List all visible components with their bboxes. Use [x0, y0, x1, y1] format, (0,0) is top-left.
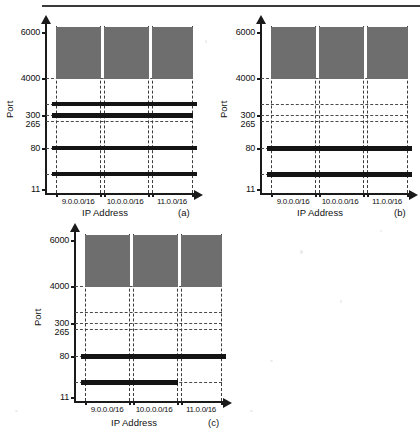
bar-b-20-col1: [267, 172, 316, 177]
bar-b-20-col2: [315, 172, 364, 177]
ytick-label-4000-b: 4000: [220, 73, 255, 83]
ytick-mark-4000-c: [71, 286, 75, 288]
block-b-col2: [319, 27, 364, 79]
bar-b-80-col2: [315, 146, 364, 151]
ytick-mark-11-a: [42, 189, 46, 191]
panel-b: 6000 4000 300 265 80 11 Port 9.0.0.0/16 …: [208, 14, 420, 209]
xtick-label-c-1: 9.0.0.0/16: [81, 405, 133, 414]
block-a-col1: [56, 27, 101, 79]
bar-c-20-col1: [81, 380, 130, 385]
block-b-col3: [367, 27, 408, 79]
y-axis-arrow-c: [70, 223, 80, 232]
xtick-label-c-3: 11.0.0/16: [177, 405, 225, 414]
ytick-label-6000-c: 6000: [34, 235, 69, 245]
y-axis-title-a: Port: [4, 101, 15, 118]
ytick-mark-80-c: [71, 356, 75, 358]
ytick-label-4000-c: 4000: [34, 281, 69, 291]
bar-a-20-col2: [100, 172, 149, 176]
ytick-label-265-c: 265: [34, 327, 69, 337]
block-c-col2: [133, 235, 178, 287]
block-c-col3: [181, 235, 222, 287]
bar-a-265-col1: [52, 113, 101, 118]
ytick-mark-300-c: [71, 323, 75, 325]
bar-c-80-col1: [81, 354, 130, 359]
y-axis-c: [74, 232, 76, 402]
xtick-label-a-1: 9.0.0.0/16: [52, 197, 104, 206]
ytick-mark-11-c: [71, 397, 75, 399]
x-axis-title-c: IP Address: [99, 417, 169, 428]
gridline-300-b: [261, 115, 408, 116]
x-axis-b: [260, 193, 410, 195]
bar-a-350-col2: [100, 102, 149, 106]
ytick-mark-11-b: [257, 189, 261, 191]
bar-c-20-col2: [129, 380, 178, 385]
block-a-col3: [152, 27, 193, 79]
bar-a-20-col1: [52, 172, 101, 176]
y-axis-title-b: Port: [218, 101, 229, 118]
y-axis-arrow-a: [41, 15, 51, 24]
ytick-mark-4000-a: [42, 78, 46, 80]
panel-tag-b: (b): [394, 207, 406, 218]
ytick-label-6000-b: 6000: [220, 27, 255, 37]
ytick-mark-6000-c: [71, 240, 75, 242]
x-axis-c: [74, 401, 224, 403]
xtick-label-b-2: 10.0.0.0/16: [314, 197, 366, 206]
block-c-col1: [85, 235, 130, 287]
y-axis-a: [45, 24, 47, 194]
xtick-label-c-2: 10.0.0.0/16: [128, 405, 180, 414]
ytick-mark-80-b: [257, 148, 261, 150]
ytick-label-80-a: 80: [5, 143, 40, 153]
xtick-label-b-1: 9.0.0.0/16: [267, 197, 319, 206]
scan-artifact: [380, 230, 382, 232]
xtick-label-b-3: 11.0.0/16: [363, 197, 411, 206]
ytick-label-11-a: 11: [5, 184, 40, 194]
panel-c: 6000 4000 300 265 80 11 Port 9.0.0.0/16 …: [22, 222, 234, 422]
ytick-mark-300-a: [42, 115, 46, 117]
block-a-col2: [104, 27, 149, 79]
scan-artifact: [300, 250, 303, 254]
ytick-label-6000-a: 6000: [5, 27, 40, 37]
y-axis-b: [260, 24, 262, 194]
bar-c-80-col2: [129, 354, 178, 359]
bar-a-265-col2: [100, 113, 149, 118]
gridline-300-c: [75, 323, 222, 324]
x-axis-a: [45, 193, 195, 195]
bar-a-20-col3: [148, 172, 197, 176]
bar-a-80-col2: [100, 146, 149, 150]
y-axis-title-c: Port: [32, 309, 43, 326]
ytick-label-11-c: 11: [34, 392, 69, 402]
ytick-mark-4000-b: [257, 78, 261, 80]
bar-c-80-col3: [177, 354, 226, 359]
x-axis-title-b: IP Address: [285, 207, 355, 218]
gridline-265-c: [75, 329, 222, 330]
header-rule: [42, 5, 420, 7]
ytick-mark-6000-a: [42, 32, 46, 34]
ytick-label-4000-a: 4000: [5, 73, 40, 83]
xtick-label-a-3: 11.0.0/16: [148, 197, 196, 206]
ytick-mark-300-b: [257, 115, 261, 117]
scan-artifact: [15, 410, 18, 412]
scan-artifact: [250, 410, 253, 412]
ytick-label-80-b: 80: [220, 143, 255, 153]
scan-artifact: [205, 40, 207, 43]
x-axis-title-a: IP Address: [70, 207, 140, 218]
ytick-mark-6000-b: [257, 32, 261, 34]
ytick-label-265-b: 265: [220, 119, 255, 129]
bar-a-350-col1: [52, 102, 101, 106]
ytick-mark-80-a: [42, 148, 46, 150]
gridline-350-c: [75, 312, 222, 313]
bar-b-80-col3: [363, 146, 412, 151]
panel-a: 6000 4000 300 265 80 11 Port 9.0.0.0/16 …: [0, 14, 210, 209]
bar-b-20-col3: [363, 172, 412, 177]
gridline-350-b: [261, 104, 408, 105]
y-axis-arrow-b: [256, 15, 266, 24]
bar-a-265-col3: [148, 113, 193, 118]
bar-a-80-col1: [52, 146, 101, 150]
ytick-label-265-a: 265: [5, 119, 40, 129]
panel-tag-c: (c): [208, 417, 219, 428]
ytick-label-80-c: 80: [34, 351, 69, 361]
panel-tag-a: (a): [178, 207, 190, 218]
scan-artifact: [270, 360, 273, 362]
scan-artifact: [340, 300, 342, 303]
